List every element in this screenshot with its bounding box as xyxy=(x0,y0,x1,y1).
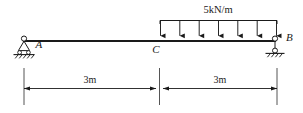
load-magnitude-label: 5kN/m xyxy=(203,4,232,15)
distributed-load xyxy=(160,21,277,36)
beam-diagram-figure: A B C xyxy=(0,0,303,113)
dimension-a-to-c: 3m xyxy=(24,74,156,89)
dimension-extension-lines xyxy=(24,68,277,105)
support-right-hatching xyxy=(267,54,282,58)
dimension-label-right: 3m xyxy=(214,74,227,85)
support-right-roller xyxy=(266,36,285,57)
label-point-c: C xyxy=(152,43,160,55)
dimension-c-to-b: 3m xyxy=(163,74,277,89)
label-point-a: A xyxy=(35,38,43,50)
label-point-b: B xyxy=(286,31,293,43)
dimension-label-left: 3m xyxy=(84,74,97,85)
diagram-canvas: A B C xyxy=(0,0,303,113)
support-left-pinned xyxy=(14,36,35,58)
load-arrows xyxy=(161,21,277,36)
support-left-hatching xyxy=(15,55,34,59)
